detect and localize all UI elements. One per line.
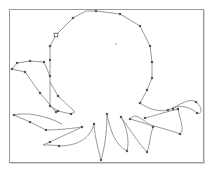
anchor-node[interactable]	[106, 113, 108, 115]
anchor-node[interactable]	[195, 101, 197, 103]
anchor-node[interactable]	[119, 13, 121, 15]
anchor-node[interactable]	[146, 151, 148, 153]
drawing-frame	[10, 10, 204, 163]
anchor-node[interactable]	[29, 121, 31, 123]
anchor-node[interactable]	[139, 25, 141, 27]
anchor-node[interactable]	[57, 110, 59, 112]
anchor-node[interactable]	[177, 108, 179, 110]
anchor-node[interactable]	[16, 62, 18, 64]
anchor-node[interactable]	[95, 10, 97, 12]
anchor-node[interactable]	[149, 45, 151, 47]
anchor-node[interactable]	[24, 71, 26, 73]
anchor-node[interactable]	[13, 114, 15, 116]
anchor-node[interactable]	[49, 59, 51, 61]
anchor-node[interactable]	[146, 89, 148, 91]
anchor-node[interactable]	[172, 108, 174, 110]
selected-anchor-node[interactable]	[54, 33, 58, 37]
anchor-node[interactable]	[129, 118, 131, 120]
anchor-node[interactable]	[152, 126, 154, 128]
anchor-node[interactable]	[70, 113, 72, 115]
anchor-node[interactable]	[43, 61, 45, 63]
anchor-node[interactable]	[57, 95, 59, 97]
anchor-node[interactable]	[179, 133, 181, 135]
anchor-node[interactable]	[126, 150, 128, 152]
anchor-node[interactable]	[29, 60, 31, 62]
anchor-node[interactable]	[49, 45, 51, 47]
anchor-node[interactable]	[151, 61, 153, 63]
anchor-node[interactable]	[11, 68, 13, 70]
anchor-node[interactable]	[45, 129, 47, 131]
anchor-node[interactable]	[39, 92, 41, 94]
anchor-node[interactable]	[49, 141, 51, 143]
anchor-node[interactable]	[151, 77, 153, 79]
anchor-node[interactable]	[81, 126, 83, 128]
anchor-node[interactable]	[120, 116, 122, 118]
anchor-node[interactable]	[58, 145, 60, 147]
anchor-node[interactable]	[49, 105, 51, 107]
drawing-canvas	[0, 0, 212, 169]
anchor-node[interactable]	[144, 117, 146, 119]
anchor-node[interactable]	[72, 17, 74, 19]
anchor-node[interactable]	[196, 112, 198, 114]
anchor-node[interactable]	[100, 159, 102, 161]
anchor-node[interactable]	[139, 102, 141, 104]
octopus-drawing	[0, 0, 212, 169]
center-marker	[115, 43, 117, 45]
anchor-node[interactable]	[93, 123, 95, 125]
anchor-node[interactable]	[167, 109, 169, 111]
anchor-node[interactable]	[49, 75, 51, 77]
anchor-node[interactable]	[55, 111, 57, 113]
